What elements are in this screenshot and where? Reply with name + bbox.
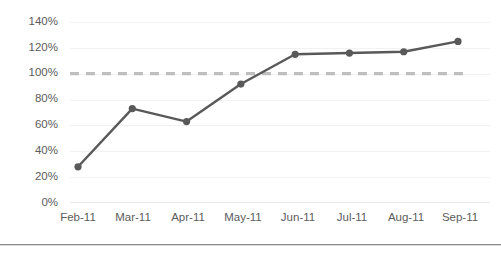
line-chart: 140% 120% 100% 80% 60% 40% 20% 0% Feb-11… — [0, 0, 501, 258]
x-tick-label-may-11: May-11 — [224, 212, 262, 224]
gridline-120 — [70, 48, 490, 49]
x-tick-label-jun-11: Jun-11 — [281, 212, 315, 224]
y-tick-label-140: 140% — [0, 16, 58, 28]
x-tick-label-jul-11: Jul-11 — [337, 212, 367, 224]
x-tick-label-apr-11: Apr-11 — [171, 212, 205, 224]
x-tick-label-mar-11: Mar-11 — [115, 212, 151, 224]
y-tick-label-40: 40% — [0, 145, 58, 157]
y-tick-label-60: 60% — [0, 119, 58, 131]
y-tick-label-120: 120% — [0, 42, 58, 54]
plot-area — [70, 22, 490, 203]
footer-divider-shadow — [0, 245, 501, 246]
gridline-100 — [70, 74, 490, 75]
x-axis-baseline — [70, 202, 490, 203]
y-tick-label-0: 0% — [0, 197, 58, 209]
gridline-40 — [70, 151, 490, 152]
gridline-140 — [70, 22, 490, 23]
y-tick-label-80: 80% — [0, 93, 58, 105]
y-tick-label-20: 20% — [0, 171, 58, 183]
gridline-20 — [70, 177, 490, 178]
x-tick-label-aug-11: Aug-11 — [388, 212, 424, 224]
gridline-80 — [70, 100, 490, 101]
x-tick-label-feb-11: Feb-11 — [60, 212, 96, 224]
gridline-60 — [70, 125, 490, 126]
x-tick-label-sep-11: Sep-11 — [442, 212, 478, 224]
y-tick-label-100: 100% — [0, 67, 58, 79]
